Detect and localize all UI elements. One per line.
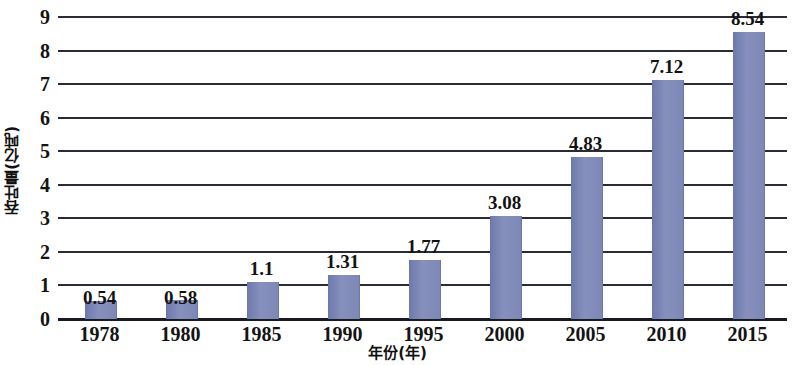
y-axis-title: 吞吐量(亿吨) bbox=[0, 95, 22, 245]
bar-value-label: 8.54 bbox=[731, 9, 764, 28]
gridline-8 bbox=[58, 50, 787, 52]
x-tick-label: 2010 bbox=[647, 323, 687, 345]
x-tick-label: 2000 bbox=[485, 323, 525, 345]
y-tick-label: 1 bbox=[26, 275, 50, 295]
y-tick-label: 0 bbox=[26, 309, 50, 329]
x-tick-label: 1995 bbox=[404, 323, 444, 345]
x-tick-label: 1985 bbox=[242, 323, 282, 345]
bar-chart: 吞吐量(亿吨) 0123456789 0.540.581.11.311.773.… bbox=[0, 0, 795, 365]
bar bbox=[247, 282, 279, 319]
x-tick-label: 1978 bbox=[80, 323, 120, 345]
bar-value-label: 7.12 bbox=[650, 57, 683, 76]
bar bbox=[409, 260, 441, 319]
x-axis-title: 年份(年) bbox=[0, 345, 795, 362]
gridline-9 bbox=[58, 16, 787, 18]
bar-value-label: 0.54 bbox=[83, 288, 116, 307]
x-tick-label: 1990 bbox=[323, 323, 363, 345]
x-tick-label: 2015 bbox=[728, 323, 768, 345]
x-tick-label: 2005 bbox=[566, 323, 606, 345]
y-tick-label: 3 bbox=[26, 208, 50, 228]
y-tick-label: 4 bbox=[26, 175, 50, 195]
bar-value-label: 4.83 bbox=[569, 134, 602, 153]
bar-value-label: 1.77 bbox=[407, 237, 440, 256]
bar bbox=[652, 80, 684, 319]
y-tick-label: 6 bbox=[26, 108, 50, 128]
bar-value-label: 0.58 bbox=[164, 288, 197, 307]
y-tick-label: 7 bbox=[26, 74, 50, 94]
bar bbox=[733, 32, 765, 319]
y-tick-label: 8 bbox=[26, 41, 50, 61]
x-tick-label: 1980 bbox=[161, 323, 201, 345]
y-tick-label: 9 bbox=[26, 7, 50, 27]
bar bbox=[571, 157, 603, 319]
y-tick-label: 5 bbox=[26, 141, 50, 161]
bar-value-label: 1.1 bbox=[250, 259, 274, 278]
y-tick-label: 2 bbox=[26, 242, 50, 262]
bar-value-label: 1.31 bbox=[326, 252, 359, 271]
bar-value-label: 3.08 bbox=[488, 193, 521, 212]
bar bbox=[490, 216, 522, 319]
y-axis-title-text: 吞吐量(亿吨) bbox=[1, 126, 22, 215]
bar bbox=[328, 275, 360, 319]
